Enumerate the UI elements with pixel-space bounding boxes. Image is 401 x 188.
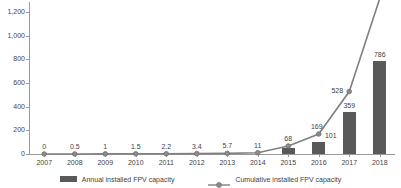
line-marker [286, 144, 291, 149]
cumulative-line [44, 0, 380, 154]
legend-label-annual: Annual installed FPV capacity [82, 176, 175, 183]
line-data-label: 11 [238, 142, 278, 149]
line-series-cumulative [0, 0, 401, 188]
line-marker [164, 151, 169, 156]
legend-label-cumulative: Cumulative installed FPV capacity [235, 176, 341, 183]
bar-data-label: 101 [311, 132, 351, 139]
line-data-label: 169 [297, 123, 337, 130]
line-marker [103, 152, 108, 157]
legend-item-annual[interactable]: Annual installed FPV capacity [60, 176, 175, 183]
fpv-capacity-chart: MWp 02004006008001,0001,200 200720082009… [0, 0, 401, 188]
chart-legend: Annual installed FPV capacity Cumulative… [0, 170, 401, 188]
legend-line-circle-swatch-icon [208, 175, 230, 183]
bar-data-label: 786 [360, 51, 400, 58]
line-marker [133, 152, 138, 157]
line-marker [225, 151, 230, 156]
line-marker [72, 152, 77, 157]
line-marker [42, 152, 47, 157]
line-marker [255, 150, 260, 155]
bar-data-label: 359 [329, 102, 369, 109]
legend-item-cumulative[interactable]: Cumulative installed FPV capacity [208, 175, 341, 183]
legend-bar-swatch-icon [60, 176, 77, 182]
line-marker [194, 151, 199, 156]
line-data-label: 528 [317, 87, 357, 94]
line-data-label: 68 [268, 135, 308, 142]
